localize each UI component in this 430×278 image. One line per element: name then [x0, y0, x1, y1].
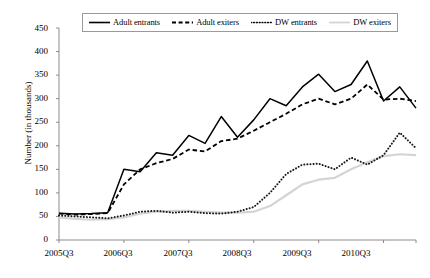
legend-label-adult-entrants: Adult entrants	[113, 18, 160, 27]
legend-item-dw-entrants: DW entrants	[251, 18, 317, 27]
chart-legend: Adult entrants Adult exiters DW entrants…	[82, 13, 398, 32]
dotted-line-swatch-icon	[251, 19, 272, 26]
legend-item-dw-exiters: DW exiters	[329, 18, 391, 27]
series-lines	[59, 61, 416, 220]
series-line-dw-entrants	[59, 133, 416, 219]
legend-item-adult-entrants: Adult entrants	[89, 18, 160, 27]
legend-label-dw-entrants: DW entrants	[275, 18, 317, 27]
plot-area	[0, 0, 430, 278]
line-chart: Number (in thousands) 450 400 350 300 25…	[0, 0, 430, 278]
series-line-dw-exiters	[59, 154, 416, 219]
light-solid-line-swatch-icon	[329, 19, 350, 26]
dashed-line-swatch-icon	[172, 19, 193, 26]
legend-item-adult-exiters: Adult exiters	[172, 18, 239, 27]
solid-line-swatch-icon	[89, 19, 110, 26]
series-line-adult-entrants	[59, 61, 416, 214]
legend-label-dw-exiters: DW exiters	[353, 18, 391, 27]
legend-label-adult-exiters: Adult exiters	[196, 18, 239, 27]
series-line-adult-exiters	[59, 85, 416, 215]
